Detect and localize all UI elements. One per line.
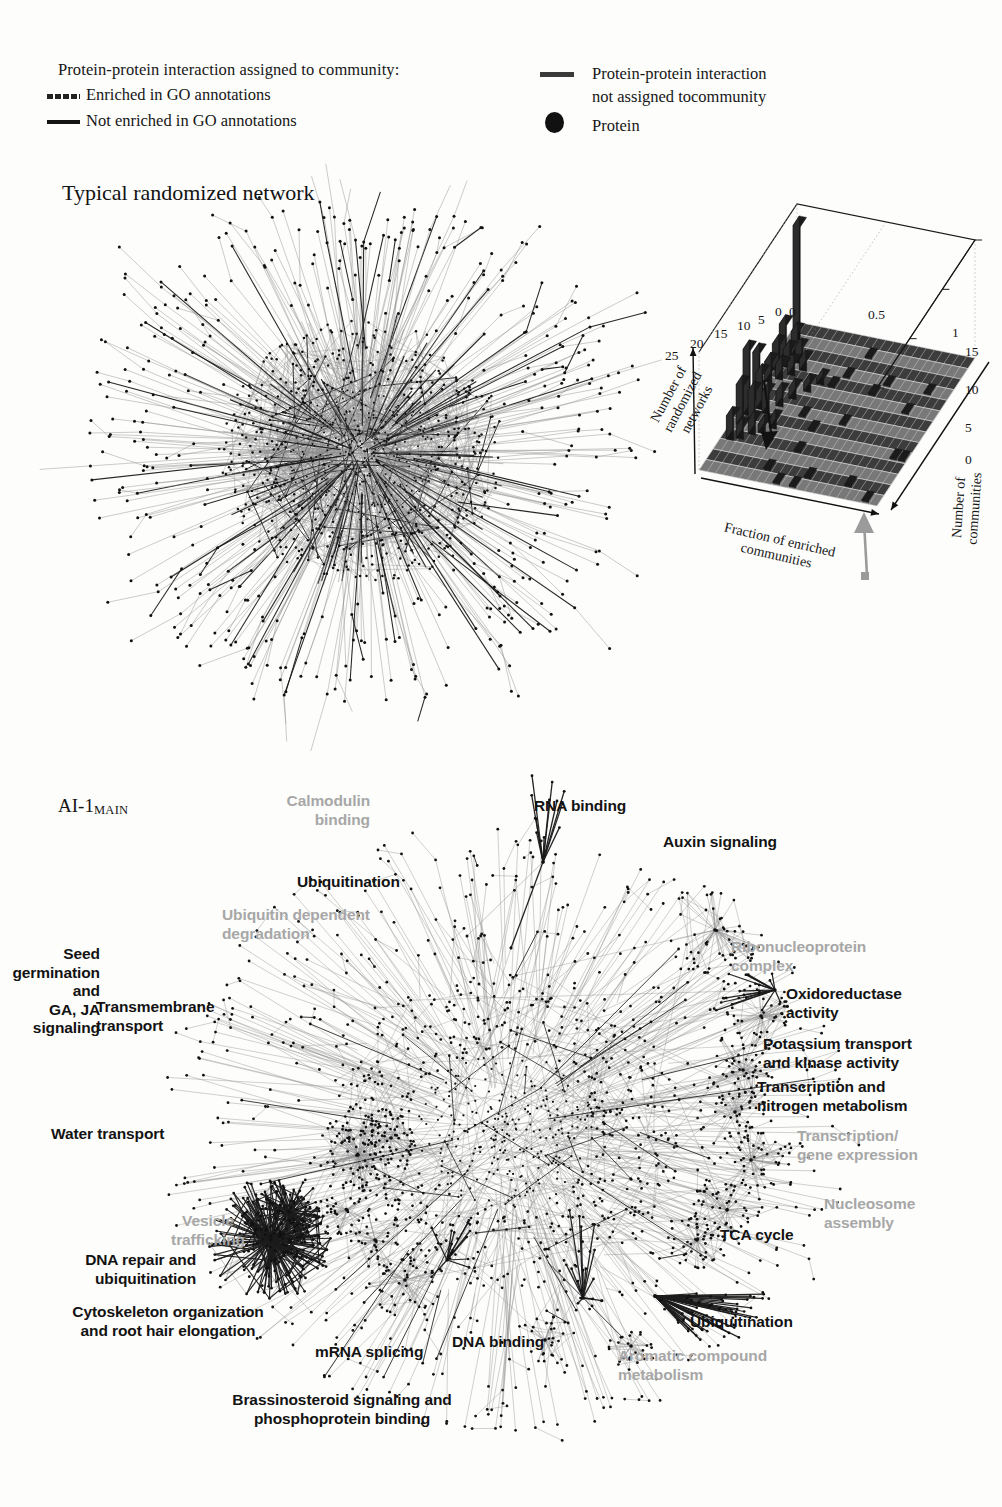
x-tick-0: 0 (789, 304, 796, 320)
module-label-calmodulin: Calmodulin binding (287, 792, 370, 829)
randomized-network-svg (70, 205, 650, 695)
z-tick-0: 0 (775, 304, 782, 320)
module-label-transcr-gene: Transcription/ gene expression (797, 1127, 918, 1164)
legend-item-not-enriched: Not enriched in GO annotations (86, 111, 297, 131)
histogram-3d-plot: 0 0.5 1 0 5 10 15 20 25 15 10 5 0 Number… (645, 300, 995, 600)
module-label-seed-germ: Seed germination and GA, JA signaling (0, 945, 100, 1038)
module-label-vesicle: Vesicle trafficking (171, 1212, 245, 1249)
typical-randomized-network-graphic (70, 205, 650, 695)
z-tick-15: 15 (714, 326, 728, 342)
module-label-ribonucleo: Ribonucleoprotein complex (731, 938, 866, 975)
module-label-auxin: Auxin signaling (663, 833, 777, 852)
module-label-dna-binding: DNA binding (452, 1333, 544, 1352)
z-tick-5: 5 (758, 312, 765, 328)
legend-item-protein: Protein (592, 116, 640, 136)
z-tick-10: 10 (737, 318, 751, 334)
legend-item-unassigned: Protein-protein interaction not assigned… (592, 62, 767, 108)
module-label-brassinosteroid: Brassinosteroid signaling and phosphopro… (232, 1391, 451, 1428)
y-tick-5: 5 (965, 420, 972, 436)
module-label-ubiquitination-2: Ubiquitination (690, 1313, 793, 1332)
module-label-nucleosome: Nucleosome assembly (824, 1195, 915, 1232)
protein-dot-swatch-icon (545, 112, 564, 133)
figure-canvas: Protein-protein interaction assigned to … (0, 0, 1002, 1507)
enriched-line-swatch-icon (47, 94, 80, 99)
x-tick-0_5: 0.5 (868, 307, 885, 323)
legend-item-enriched: Enriched in GO annotations (86, 85, 271, 105)
module-label-tca: TCA cycle (720, 1226, 793, 1245)
legend-title: Protein-protein interaction assigned to … (58, 60, 399, 80)
module-label-transmembrane: Transmembrane transport (96, 998, 214, 1035)
module-label-water-transport: Water transport (51, 1125, 164, 1144)
module-label-rna-binding: RNA binding (534, 797, 626, 816)
module-label-transcription-n: Transcription and nitrogen metabolism (757, 1078, 908, 1115)
legend: Protein-protein interaction assigned to … (0, 0, 1002, 150)
module-label-ubi-dep-deg: Ubiquitin dependent degradation (222, 906, 370, 943)
module-label-oxidoreductase: Oxidoreductase activity (786, 985, 902, 1022)
module-label-mrna-splicing: mRNA splicing (315, 1343, 423, 1362)
module-label-dna-repair: DNA repair and ubiquitination (85, 1251, 196, 1288)
randomized-network-title: Typical randomized network (62, 180, 315, 206)
module-label-ubiquitination-1: Ubiquitination (297, 873, 400, 892)
module-label-potassium: Potassium transport and kinase activity (763, 1035, 912, 1072)
x-tick-1: 1 (952, 325, 959, 341)
unassigned-line-swatch-icon (540, 72, 574, 77)
not-enriched-line-swatch-icon (47, 120, 80, 124)
module-label-cytoskeleton: Cytoskeleton organization and root hair … (72, 1303, 263, 1340)
y-tick-10: 10 (965, 382, 979, 398)
y-tick-15: 15 (965, 344, 979, 360)
module-label-aromatic: Aromatic compound metabolism (618, 1347, 767, 1384)
